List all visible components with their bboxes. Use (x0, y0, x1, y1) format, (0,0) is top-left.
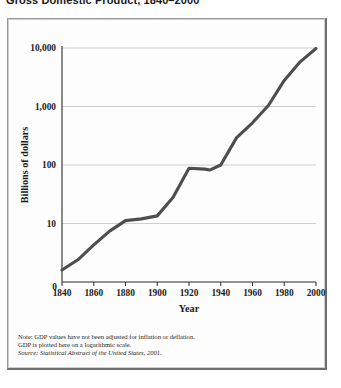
x-tick-label: 1840 (53, 288, 72, 298)
y-tick-label: 1,000 (35, 102, 56, 112)
y-tick-label: 10 (47, 219, 57, 229)
x-axis-title: Year (179, 303, 200, 314)
plot-area: 10,0001,00010010018401860188019001920194… (0, 0, 341, 388)
x-tick-label: 1900 (148, 288, 167, 298)
x-tick-label: 1960 (243, 288, 262, 298)
note-line-2: GDP is plotted here on a logarithmic sca… (18, 341, 318, 349)
x-tick-label: 1940 (211, 288, 230, 298)
y-tick-label: 100 (42, 160, 56, 170)
x-tick-label: 2000 (307, 288, 326, 298)
y-axis-title: Billions of dollars (19, 127, 30, 203)
x-tick-label: 1880 (116, 288, 135, 298)
y-tick-label: 10,000 (30, 43, 56, 53)
gdp-data-line (62, 49, 316, 271)
chart-page: Gross Domestic Product, 1840–2000 10,000… (0, 0, 341, 388)
x-tick-label: 1920 (180, 288, 199, 298)
note-line-1: Note: GDP values have not been adjusted … (18, 333, 318, 341)
x-tick-label: 1980 (275, 288, 294, 298)
gdp-line-chart: 10,0001,00010010018401860188019001920194… (0, 0, 341, 388)
chart-notes: Note: GDP values have not been adjusted … (18, 333, 318, 358)
x-tick-label: 1860 (84, 288, 103, 298)
note-source: Source: Statistical Abstract of the Unit… (18, 349, 318, 357)
